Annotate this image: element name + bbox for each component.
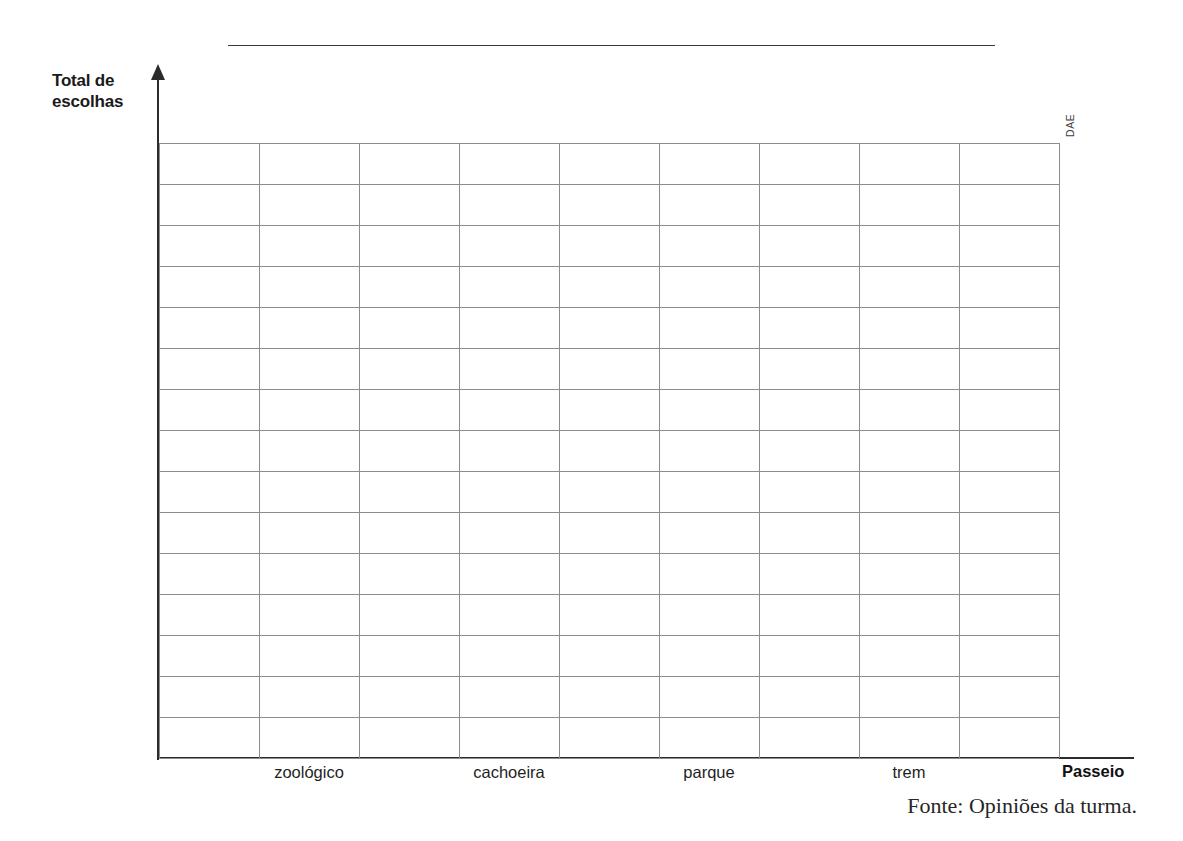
x-axis-category-label: zoológico [219,763,399,782]
worksheet-page: Total de escolhas zoológicocachoeiraparq… [0,0,1183,841]
grid-vertical-line [159,143,160,758]
x-axis-category-label: parque [619,763,799,782]
grid-horizontal-line [159,717,1059,718]
source-note: Fonte: Opiniões da turma. [907,793,1137,819]
y-axis-label: Total de escolhas [52,70,152,112]
grid-horizontal-line [159,348,1059,349]
grid-horizontal-line [159,266,1059,267]
x-axis-category-label: trem [819,763,999,782]
y-axis-label-line-2: escolhas [52,91,152,112]
x-axis-category-label: cachoeira [419,763,599,782]
grid-horizontal-line [159,676,1059,677]
grid-vertical-line [559,143,560,758]
grid-horizontal-line [159,184,1059,185]
chart-title-blank-rule [228,45,995,46]
y-axis-label-line-1: Total de [52,70,152,91]
grid-horizontal-line [159,758,1059,759]
grid-horizontal-line [159,553,1059,554]
grid-horizontal-line [159,512,1059,513]
grid-horizontal-line [159,307,1059,308]
grid-vertical-line [459,143,460,758]
x-axis-title: Passeio [1062,762,1124,781]
grid-vertical-line [359,143,360,758]
grid-vertical-line [259,143,260,758]
grid-vertical-line [959,143,960,758]
grid-vertical-line [659,143,660,758]
grid-horizontal-line [159,143,1059,144]
grid-horizontal-line [159,594,1059,595]
grid-vertical-line [1059,143,1060,758]
grid-vertical-line [859,143,860,758]
grid-horizontal-line [159,471,1059,472]
plot-grid [159,143,1059,758]
credit-text: DAE [1064,114,1076,137]
grid-horizontal-line [159,635,1059,636]
grid-horizontal-line [159,225,1059,226]
grid-horizontal-line [159,389,1059,390]
grid-vertical-line [759,143,760,758]
grid-horizontal-line [159,430,1059,431]
